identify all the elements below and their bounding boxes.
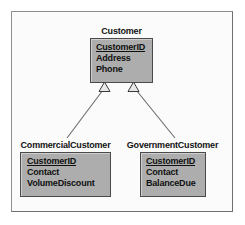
attribute-government-0: CustomerID xyxy=(146,156,205,167)
class-attributes-commercial-customer: CustomerID Contact VolumeDiscount xyxy=(20,152,111,197)
class-node-customer[interactable]: Customer CustomerID Address Phone xyxy=(90,26,153,83)
class-name-government-customer: GovernmentCustomer xyxy=(126,140,219,150)
generalization-arrowhead-commercial xyxy=(99,82,110,92)
class-node-commercial-customer[interactable]: CommercialCustomer CustomerID Contact Vo… xyxy=(20,140,111,197)
attribute-commercial-1: Contact xyxy=(27,167,110,178)
class-name-commercial-customer: CommercialCustomer xyxy=(20,140,111,150)
generalization-line-government xyxy=(135,88,176,138)
attribute-customer-1: Address xyxy=(96,53,152,64)
generalization-arrowhead-government xyxy=(128,82,139,92)
class-name-customer: Customer xyxy=(90,26,153,36)
attribute-commercial-2: VolumeDiscount xyxy=(27,178,110,189)
class-node-government-customer[interactable]: GovernmentCustomer CustomerID Contact Ba… xyxy=(126,140,219,197)
attribute-government-2: BalanceDue xyxy=(146,178,205,189)
class-attributes-government-customer: CustomerID Contact BalanceDue xyxy=(140,152,206,197)
attribute-government-1: Contact xyxy=(146,167,205,178)
generalization-line-commercial xyxy=(67,88,105,138)
diagram-canvas: Customer CustomerID Address Phone Commer… xyxy=(0,0,245,225)
attribute-customer-0: CustomerID xyxy=(96,42,152,53)
attribute-customer-2: Phone xyxy=(96,64,152,75)
class-attributes-customer: CustomerID Address Phone xyxy=(90,38,153,83)
attribute-commercial-0: CustomerID xyxy=(27,156,110,167)
